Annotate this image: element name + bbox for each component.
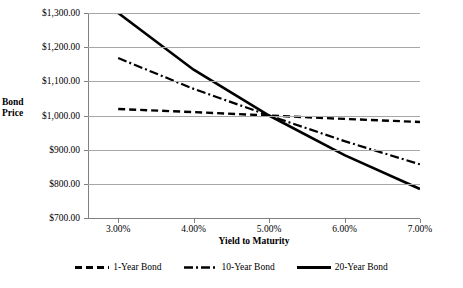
y-axis-tick <box>84 218 88 219</box>
y-axis-tick-label: $1,200.00 <box>4 42 80 52</box>
x-axis-title: Yield to Maturity <box>88 236 420 246</box>
y-axis-tick <box>84 13 88 14</box>
y-axis-tick-label: $800.00 <box>4 179 80 189</box>
y-axis-tick-label: $1,100.00 <box>4 76 80 86</box>
y-axis-tick-label: $1,300.00 <box>4 8 80 18</box>
bond-price-yield-chart: $1,300.00$1,200.00$1,100.00$1,000.00$900… <box>0 0 463 288</box>
x-axis-tick-label: 7.00% <box>408 224 433 235</box>
x-axis-tick-label: 6.00% <box>332 224 357 235</box>
legend-label: 1-Year Bond <box>113 262 161 272</box>
gridline <box>88 218 420 219</box>
y-axis-tick <box>84 116 88 117</box>
y-axis-tick <box>84 184 88 185</box>
x-axis-tick-label: 5.00% <box>257 224 282 235</box>
legend-label: 10-Year Bond <box>222 262 275 272</box>
x-axis-tick <box>269 219 270 223</box>
solid-line-swatch <box>297 263 331 272</box>
x-axis-tick <box>420 219 421 223</box>
y-axis-title: BondPrice <box>2 97 48 119</box>
plot-area <box>88 13 420 218</box>
dash-dot-line-swatch <box>184 263 218 272</box>
y-axis-tick-label: $700.00 <box>4 213 80 223</box>
x-axis-tick-label: 4.00% <box>181 224 206 235</box>
chart-legend: 1-Year Bond10-Year Bond20-Year Bond <box>0 262 463 272</box>
gridline <box>88 13 420 14</box>
y-axis-tick-label: $900.00 <box>4 145 80 155</box>
legend-label: 20-Year Bond <box>335 262 388 272</box>
dashed-line-swatch <box>75 263 109 272</box>
gridline <box>88 47 420 48</box>
x-axis-tick <box>118 219 119 223</box>
y-axis-tick-labels: $1,300.00$1,200.00$1,100.00$1,000.00$900… <box>0 0 80 288</box>
legend-item[interactable]: 10-Year Bond <box>184 262 275 272</box>
legend-item[interactable]: 20-Year Bond <box>297 262 388 272</box>
x-axis-tick <box>345 219 346 223</box>
y-axis-tick <box>84 81 88 82</box>
gridline <box>88 184 420 185</box>
y-axis-tick <box>84 47 88 48</box>
gridline <box>88 81 420 82</box>
x-axis-tick-label: 3.00% <box>106 224 131 235</box>
legend-item[interactable]: 1-Year Bond <box>75 262 161 272</box>
gridline <box>88 150 420 151</box>
gridline <box>88 116 420 117</box>
x-axis-tick <box>194 219 195 223</box>
series-line-20-year-bond <box>118 13 420 189</box>
y-axis-tick <box>84 150 88 151</box>
